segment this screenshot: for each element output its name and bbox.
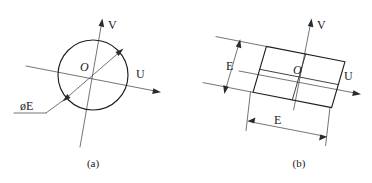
panel-a-axis-u-arrowhead: [152, 88, 161, 94]
panel-a-origin-label: O: [80, 60, 89, 74]
panel-b-origin-label: O: [293, 63, 302, 77]
panel-a: O V U øE (a): [14, 18, 161, 170]
panel-b-horizontal-dimension-label: E: [274, 113, 281, 127]
figure-container: O V U øE (a): [0, 0, 372, 183]
panel-b-axis-v-label: V: [317, 18, 326, 32]
panel-b-horizontal-dimension: [247, 118, 327, 141]
panel-b: O V U E E (b): [203, 18, 361, 170]
panel-b-axis-u-label: U: [344, 69, 353, 83]
panel-b-vertical-dimension-label: E: [226, 59, 233, 73]
panel-b-horizontal-dimension-arrow-left: [247, 118, 255, 124]
panel-b-vertical-dimension-arrow-bottom: [223, 85, 229, 94]
panel-b-horizontal-extension-lines: [246, 92, 330, 146]
panel-b-caption: (b): [293, 157, 306, 170]
panel-a-axis-u-label: U: [136, 67, 145, 81]
panel-a-axis-v-arrowhead: [99, 19, 105, 28]
panel-a-caption: (a): [87, 157, 100, 170]
panel-a-axis-v-label: V: [108, 18, 117, 32]
panel-b-axis-u-arrowhead: [352, 90, 361, 96]
panel-b-vertical-extension-lines: [203, 37, 268, 93]
technical-diagram: O V U øE (a): [0, 0, 372, 183]
panel-b-axis-v-arrowhead: [308, 19, 314, 28]
panel-a-diameter-label: øE: [20, 99, 33, 113]
